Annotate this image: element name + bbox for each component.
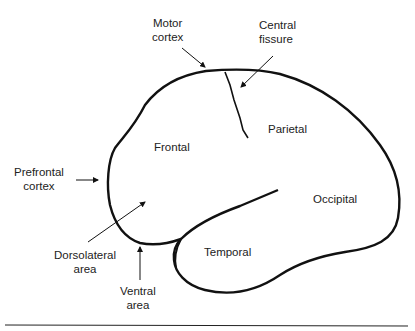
temporal-label: Temporal — [204, 245, 251, 259]
frontal-label: Frontal — [154, 140, 190, 154]
motor-cortex-line1: Motor — [152, 16, 183, 30]
dorsolateral-arrow — [88, 202, 145, 242]
motor-cortex-arrow — [182, 48, 205, 67]
occipital-label: Occipital — [313, 192, 357, 206]
prefrontal-cortex-label: Prefrontal cortex — [14, 165, 64, 193]
ventral-line2: area — [120, 298, 156, 312]
dorsolateral-line2: area — [54, 262, 116, 276]
prefrontal-line2: cortex — [14, 179, 64, 193]
dorsolateral-line1: Dorsolateral — [54, 248, 116, 262]
motor-cortex-line2: cortex — [152, 30, 183, 44]
ventral-label: Ventral area — [120, 284, 156, 312]
prefrontal-line1: Prefrontal — [14, 165, 64, 179]
central-fissure-line — [225, 72, 248, 138]
motor-cortex-label: Motor cortex — [152, 16, 183, 44]
bottom-rule — [5, 325, 408, 326]
dorsolateral-label: Dorsolateral area — [54, 248, 116, 276]
central-fissure-line2: fissure — [259, 32, 296, 46]
ventral-line1: Ventral — [120, 284, 156, 298]
lateral-sulcus — [181, 190, 278, 239]
brain-outline — [108, 69, 399, 292]
central-fissure-label: Central fissure — [259, 18, 296, 46]
central-fissure-line1: Central — [259, 18, 296, 32]
parietal-label: Parietal — [268, 122, 307, 136]
